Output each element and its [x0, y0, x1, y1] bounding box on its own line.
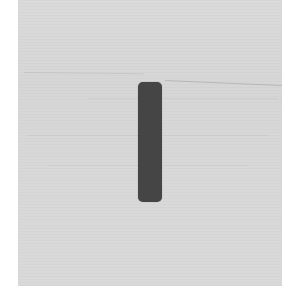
dark-vertical-bar: [138, 82, 162, 202]
textured-surface: [18, 0, 282, 286]
faint-horizontal-line: [165, 80, 282, 86]
texture-streak: [24, 72, 144, 74]
texture-streak: [88, 98, 278, 99]
